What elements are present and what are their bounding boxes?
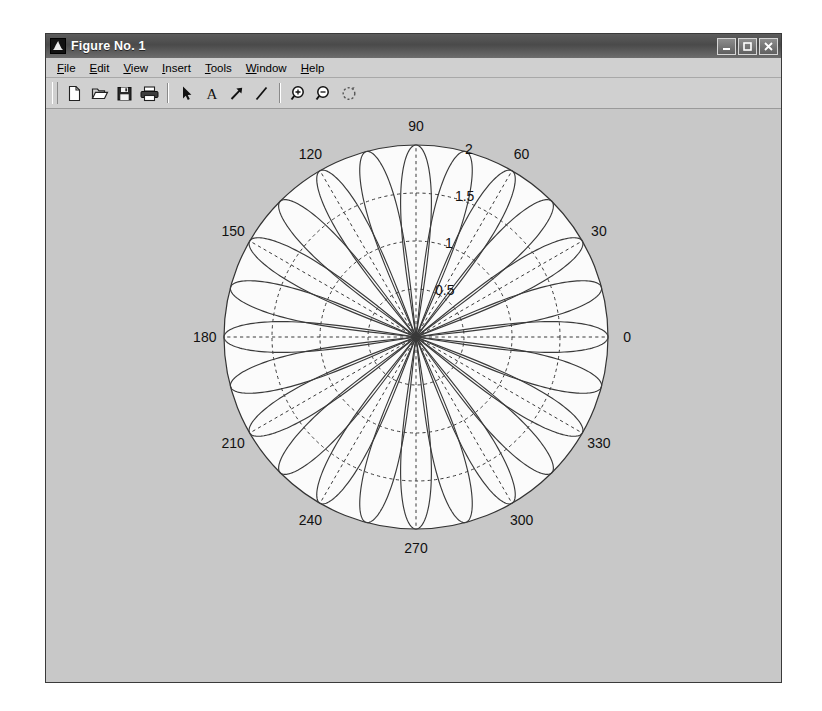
menu-item-edit[interactable]: Edit [83,61,117,75]
insert-text-icon[interactable]: A [199,81,224,105]
menu-item-view[interactable]: View [116,61,155,75]
theta-tick-label-120: 120 [299,146,323,162]
menu-item-insert[interactable]: Insert [155,61,198,75]
menu-bar: File Edit View Insert Tools Window Help [46,58,781,78]
r-tick-label-2: 2 [465,141,473,157]
zoom-in-icon[interactable] [286,81,311,105]
maximize-icon[interactable] [738,38,757,55]
toolbar-separator-1 [167,83,169,103]
toolbar-separator-2 [279,83,281,103]
toolbar-grip[interactable] [52,82,58,104]
menu-item-file[interactable]: File [50,61,83,75]
theta-tick-label-30: 30 [591,223,607,239]
svg-text:A: A [206,86,217,102]
menu-item-tools[interactable]: Tools [198,61,239,75]
figure-canvas[interactable]: 03060901201501802102402703003300.511.52 [46,109,781,682]
window-title: Figure No. 1 [71,39,146,53]
polar-plot: 03060901201501802102402703003300.511.52 [46,109,781,682]
theta-tick-label-60: 60 [514,146,530,162]
title-bar[interactable]: Figure No. 1 [46,34,781,58]
window-controls [717,38,778,55]
minimize-icon[interactable] [717,38,736,55]
r-tick-label-1: 1 [445,235,453,251]
print-figure-icon[interactable] [137,81,162,105]
theta-tick-label-90: 90 [408,118,424,134]
r-tick-label-0.5: 0.5 [435,282,455,298]
theta-tick-label-210: 210 [221,435,245,451]
tool-bar: A [46,78,781,109]
insert-line-icon[interactable] [249,81,274,105]
theta-tick-label-0: 0 [623,329,631,345]
save-figure-icon[interactable] [112,81,137,105]
theta-tick-label-270: 270 [404,540,428,556]
r-tick-label-1.5: 1.5 [455,188,475,204]
open-file-icon[interactable] [87,81,112,105]
menu-item-help[interactable]: Help [294,61,332,75]
menu-item-window[interactable]: Window [239,61,294,75]
theta-tick-label-300: 300 [510,512,534,528]
theta-tick-label-180: 180 [193,329,217,345]
theta-tick-label-150: 150 [221,223,245,239]
pointer-arrow-icon[interactable] [174,81,199,105]
close-icon[interactable] [759,38,778,55]
theta-tick-label-240: 240 [299,512,323,528]
figure-window: Figure No. 1 File Edit View Insert Tools… [45,33,782,683]
matlab-membrane-icon[interactable] [50,38,66,54]
zoom-out-icon[interactable] [311,81,336,105]
theta-tick-label-330: 330 [587,435,611,451]
insert-arrow-icon[interactable] [224,81,249,105]
new-figure-icon[interactable] [62,81,87,105]
rotate-3d-icon[interactable] [336,81,361,105]
